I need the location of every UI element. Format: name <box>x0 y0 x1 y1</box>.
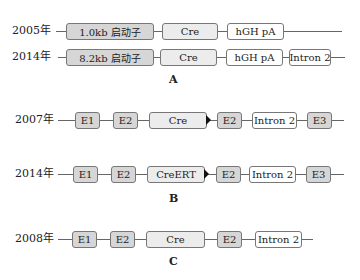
year-label: 2008年 <box>15 232 54 246</box>
panel-label-b: B <box>169 192 178 205</box>
year-label: 2005年 <box>12 24 51 38</box>
cre-box: Cre <box>160 49 217 66</box>
intron2-box: Intron 2 <box>289 49 331 66</box>
exon-e2-box: E2 <box>113 112 138 129</box>
cre-box: Cre <box>149 112 207 129</box>
year-label: 2014年 <box>15 167 54 181</box>
exon-e2-box: E2 <box>217 231 242 248</box>
hgh-pa-box: hGH pA <box>227 23 284 40</box>
exon-e3-box: E3 <box>306 166 331 183</box>
exon-e1-box: E1 <box>72 231 97 248</box>
creert-box: CreERT <box>147 166 205 183</box>
panel-label-a: A <box>169 73 178 86</box>
panel-label-c: C <box>169 255 178 268</box>
exon-e2-box: E2 <box>110 231 135 248</box>
exon-e2-box: E2 <box>111 166 136 183</box>
loxp-triangle-icon <box>206 115 211 125</box>
year-label: 2007年 <box>15 113 54 127</box>
promoter-box: 8.2kb 启动子 <box>66 49 154 66</box>
cre-box: Cre <box>162 23 218 40</box>
exon-e1-box: E1 <box>73 166 98 183</box>
exon-e2-box: E2 <box>217 112 242 129</box>
intron2-box: Intron 2 <box>249 166 296 183</box>
exon-e2-box: E2 <box>216 166 241 183</box>
hgh-pa-box: hGH pA <box>226 49 283 66</box>
intron2-box: Intron 2 <box>252 112 297 129</box>
promoter-box: 1.0kb 启动子 <box>66 23 154 40</box>
exon-e3-box: E3 <box>307 112 332 129</box>
year-label: 2014年 <box>12 50 51 64</box>
loxp-triangle-icon <box>204 169 209 179</box>
exon-e1-box: E1 <box>75 112 100 129</box>
cre-box: Cre <box>146 231 205 248</box>
intron2-box: Intron 2 <box>255 231 302 248</box>
